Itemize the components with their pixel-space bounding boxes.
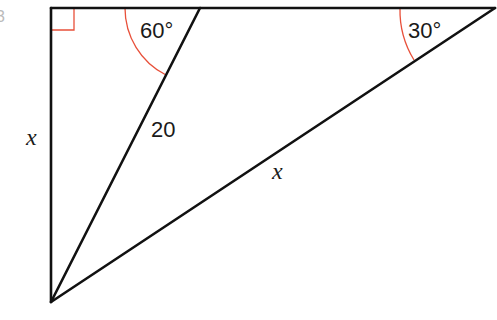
hypotenuse-label: x	[271, 158, 283, 184]
angle-label-60: 60°	[140, 18, 173, 43]
left-side-label: x	[25, 124, 37, 150]
right-angle-marker	[51, 8, 74, 30]
triangle-diagram: 3 60° 30° 20 x x	[0, 0, 497, 320]
cropped-glyph: 3	[0, 8, 5, 25]
angle-label-30: 30°	[408, 18, 441, 43]
hypotenuse-line	[51, 8, 495, 302]
cevian-line	[51, 8, 200, 302]
cevian-length-label: 20	[151, 117, 175, 142]
